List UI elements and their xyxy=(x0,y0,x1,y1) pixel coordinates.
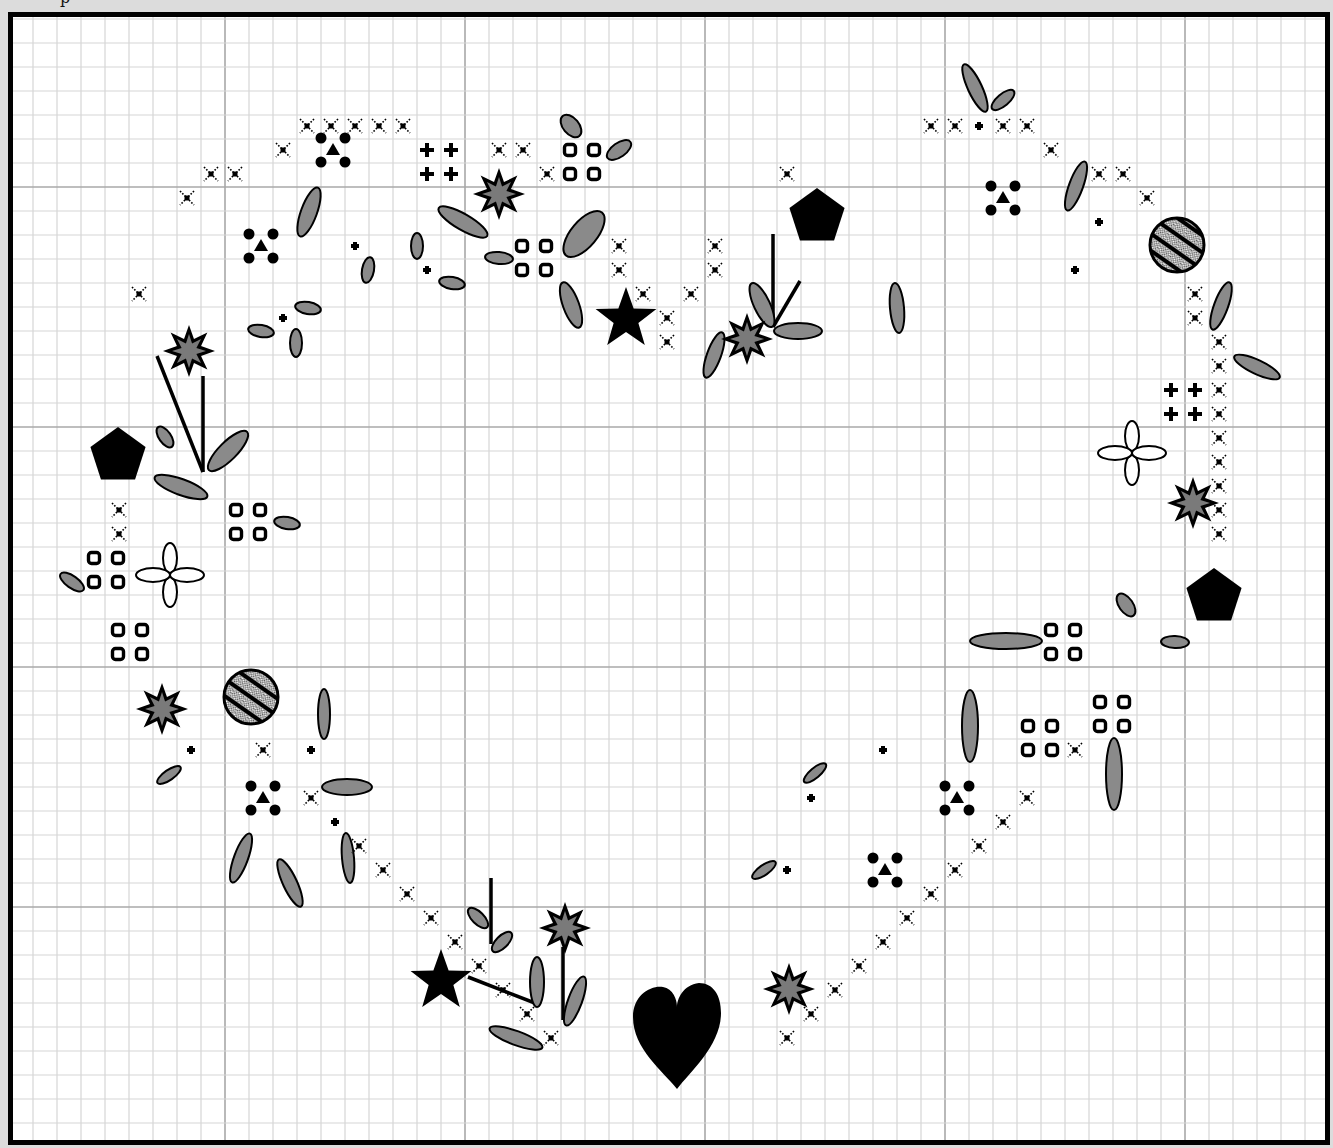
starburst-flower-icon xyxy=(473,168,525,220)
bead-ring-icon xyxy=(589,169,600,180)
bead-ring-icon xyxy=(1070,649,1081,660)
leaf-icon xyxy=(970,633,1042,649)
bead-ring-icon xyxy=(1119,721,1130,732)
bead-ring-icon xyxy=(565,169,576,180)
bead-ring-icon xyxy=(1095,697,1106,708)
bead-ring-icon xyxy=(113,577,124,588)
bead-ring-icon xyxy=(589,145,600,156)
hatched-button-icon xyxy=(1150,218,1204,272)
bead-ring-icon xyxy=(231,505,242,516)
bead-ring-icon xyxy=(89,577,100,588)
bead-ring-icon xyxy=(113,649,124,660)
bead-ring-icon xyxy=(541,265,552,276)
bead-ring-icon xyxy=(1047,745,1058,756)
bead-ring-icon xyxy=(231,529,242,540)
starburst-flower-icon xyxy=(721,313,773,365)
bead-ring-icon xyxy=(565,145,576,156)
hatched-button-icon xyxy=(224,670,278,724)
starburst-flower-icon xyxy=(136,683,188,735)
leaf-icon xyxy=(322,779,372,795)
bead-ring-icon xyxy=(113,625,124,636)
leaf-icon xyxy=(411,233,423,259)
leaf-icon xyxy=(1106,738,1122,810)
cross-stitch-chart xyxy=(8,12,1330,1145)
bead-ring-icon xyxy=(541,241,552,252)
leaf-icon xyxy=(530,957,544,1007)
bead-ring-icon xyxy=(137,625,148,636)
leaf-icon xyxy=(318,689,330,739)
leaf-icon xyxy=(774,323,822,339)
bead-ring-icon xyxy=(255,529,266,540)
bead-ring-icon xyxy=(1047,721,1058,732)
starburst-flower-icon xyxy=(763,963,815,1015)
bead-ring-icon xyxy=(255,505,266,516)
leaf-icon xyxy=(290,329,302,357)
bead-ring-icon xyxy=(1046,625,1057,636)
bead-ring-icon xyxy=(1023,745,1034,756)
bead-ring-icon xyxy=(1119,697,1130,708)
bead-ring-icon xyxy=(517,241,528,252)
paper-background xyxy=(8,12,1330,1145)
starburst-flower-icon xyxy=(1167,477,1219,529)
bead-ring-icon xyxy=(1023,721,1034,732)
bead-ring-icon xyxy=(1046,649,1057,660)
bead-ring-icon xyxy=(1070,625,1081,636)
bead-ring-icon xyxy=(1095,721,1106,732)
bead-ring-icon xyxy=(517,265,528,276)
cropped-heading-glyph: p xyxy=(60,0,70,6)
starburst-flower-icon xyxy=(539,902,591,954)
bead-ring-icon xyxy=(113,553,124,564)
pattern-canvas xyxy=(8,12,1330,1145)
leaf-icon xyxy=(962,690,978,762)
starburst-flower-icon xyxy=(163,325,215,377)
bead-ring-icon xyxy=(89,553,100,564)
bead-ring-icon xyxy=(137,649,148,660)
leaf-icon xyxy=(1161,636,1189,649)
